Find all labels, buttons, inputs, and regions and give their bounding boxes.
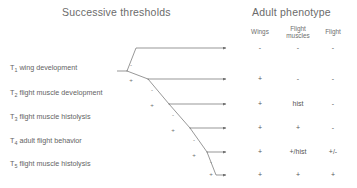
phenotype-cell-row6-wings: + [243,171,277,178]
branch-sign-t4-plus: + [189,151,199,158]
branch-sign-t3-minus: - [168,111,178,118]
phenotype-cell-row3-wings: + [243,100,277,107]
branch-sign-t2-plus: + [147,101,157,108]
branch-sign-t5-minus: - [206,158,216,165]
phenotype-cell-row4-wings: + [243,124,277,131]
phenotype-cell-row1-flight: - [318,44,348,51]
figure-root: Successive thresholds Adult phenotype Wi… [0,0,357,188]
phenotype-cell-row4-flight: - [318,124,348,131]
phenotype-cell-row5-flight: +/- [318,148,348,155]
branch-sign-t1-minus: - [126,61,136,68]
branch-sign-t3-plus: + [168,126,178,133]
phenotype-cell-row2-wings: + [243,75,277,82]
phenotype-cell-row1-wings: - [243,44,277,51]
phenotype-cell-row5-wings: + [243,148,277,155]
phenotype-cell-row1-muscles: - [281,44,315,51]
phenotype-cell-row6-muscles: + [281,171,315,178]
branch-sign-t2-minus: - [147,86,157,93]
branch-sign-t4-minus: - [189,136,199,143]
phenotype-cell-row6-flight: + [318,171,348,178]
phenotype-cell-row3-muscles: hist [281,100,315,107]
phenotype-cell-row4-muscles: + [281,124,315,131]
branch-sign-t1-plus: + [126,76,136,83]
phenotype-cell-row5-muscles: +/hist [281,148,315,155]
phenotype-cell-row3-flight: - [318,100,348,107]
phenotype-cell-row2-muscles: - [281,75,315,82]
phenotype-cell-row2-flight: - [318,75,348,82]
decision-tree-diagram [0,0,357,188]
branch-sign-t5-plus: + [206,170,216,177]
